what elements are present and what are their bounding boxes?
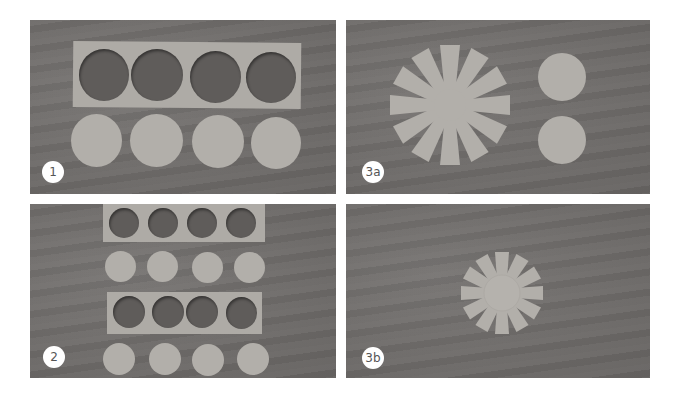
step-3a-photo: 3a bbox=[346, 20, 650, 194]
paper-disc bbox=[192, 344, 224, 376]
paper-disc bbox=[538, 53, 586, 101]
hole bbox=[190, 51, 241, 103]
hole bbox=[109, 208, 139, 238]
step-3b-photo: 3b bbox=[346, 204, 650, 378]
step-badge: 2 bbox=[43, 346, 65, 368]
paper-star bbox=[346, 20, 650, 194]
paper-disc bbox=[105, 251, 136, 282]
step-badge: 1 bbox=[42, 161, 64, 183]
hole bbox=[148, 208, 178, 238]
paper-disc bbox=[149, 343, 181, 375]
hole bbox=[226, 208, 256, 238]
paper-disc bbox=[130, 114, 183, 167]
hole bbox=[79, 49, 129, 101]
step-1-photo: 1 bbox=[30, 20, 336, 194]
paper-disc bbox=[71, 114, 122, 167]
hole bbox=[226, 297, 257, 329]
step-badge: 3a bbox=[362, 161, 384, 183]
step-2-photo: 2 bbox=[30, 204, 336, 378]
hole bbox=[187, 208, 217, 238]
paper-disc bbox=[234, 252, 265, 283]
paper-disc bbox=[192, 115, 244, 168]
step-badge: 3b bbox=[362, 347, 384, 369]
hole bbox=[152, 296, 184, 328]
paper-disc bbox=[251, 117, 301, 169]
paper-disc bbox=[538, 116, 586, 164]
hole bbox=[113, 296, 145, 328]
paper-disc bbox=[147, 251, 178, 282]
hole bbox=[186, 296, 218, 328]
hole bbox=[246, 52, 296, 103]
paper-disc bbox=[192, 252, 223, 283]
paper-disc bbox=[237, 343, 269, 375]
paper-disc bbox=[103, 343, 135, 375]
hole bbox=[131, 49, 183, 101]
paper-star-with-center bbox=[346, 204, 650, 378]
